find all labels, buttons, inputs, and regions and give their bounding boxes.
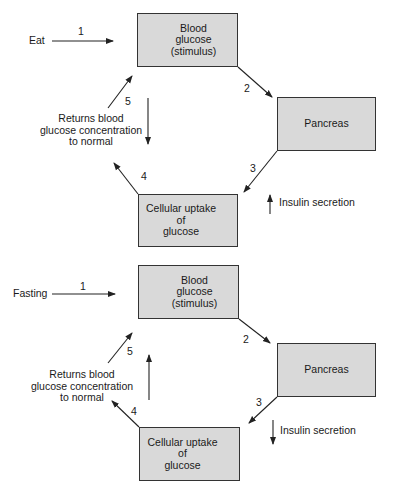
return-normal-label: Returns blood glucose concentration to n…: [29, 369, 135, 404]
return-line3: to normal: [29, 392, 135, 404]
return-line1: Returns blood: [29, 369, 135, 381]
return-line3: to normal: [38, 136, 144, 148]
step-4: 4: [141, 170, 147, 182]
step-5: 5: [125, 95, 131, 107]
step-3: 3: [250, 162, 256, 174]
pancreas-box: Pancreas: [277, 97, 376, 151]
trigger-label: Eat: [29, 35, 45, 47]
return-normal-label: Returns blood glucose concentration to n…: [38, 113, 144, 148]
cellular-uptake-box: Cellular uptake of glucose: [139, 427, 240, 481]
uptake-line3: glucose: [147, 460, 217, 472]
stimulus-line3: (stimulus): [171, 46, 217, 58]
insulin-secretion-label: Insulin secretion: [280, 425, 356, 437]
stimulus-box: Blood glucose (stimulus): [137, 13, 238, 67]
step-2: 2: [243, 333, 249, 345]
pancreas-box: Pancreas: [277, 343, 376, 397]
step-3: 3: [256, 396, 262, 408]
step-2: 2: [244, 82, 250, 94]
stimulus-box: Blood glucose (stimulus): [138, 265, 239, 319]
step-1: 1: [78, 25, 84, 37]
stimulus-line3: (stimulus): [172, 298, 218, 310]
return-line1: Returns blood: [38, 113, 144, 125]
step-4: 4: [131, 405, 137, 417]
pancreas-label: Pancreas: [304, 364, 348, 376]
step-1: 1: [80, 280, 86, 292]
insulin-secretion-label: Insulin secretion: [279, 197, 355, 209]
cellular-uptake-box: Cellular uptake of glucose: [138, 194, 238, 247]
trigger-label: Fasting: [13, 288, 47, 300]
pancreas-label: Pancreas: [304, 118, 348, 130]
step-5: 5: [127, 345, 133, 357]
uptake-line3: glucose: [146, 226, 216, 238]
